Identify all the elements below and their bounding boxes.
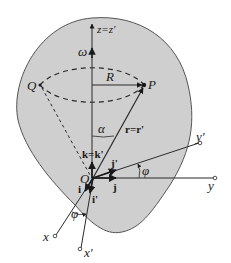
q-label: Q — [27, 78, 37, 93]
alpha-label: α — [98, 121, 106, 136]
k-vector-label: k=k' — [82, 148, 104, 160]
point-p — [142, 83, 146, 87]
r-vector-label: r=r' — [125, 123, 144, 135]
z-axis-label: z=z' — [96, 23, 116, 35]
origin-point — [92, 177, 95, 180]
p-label: P — [147, 77, 156, 92]
point-q — [39, 84, 42, 87]
i-label: i — [78, 183, 81, 195]
origin-label: O — [80, 171, 90, 186]
omega-label: ω — [78, 44, 87, 59]
rotating-frame-diagram: z=z' ω Q R P α r=r' k=k' y' φ j' j y O i… — [0, 0, 231, 263]
j-label: j — [112, 181, 117, 193]
y-prime-label: y' — [194, 129, 205, 144]
x-prime-label: x' — [83, 245, 93, 260]
y-label: y — [206, 178, 214, 193]
r-radius-label: R — [105, 69, 114, 84]
j-prime-label: j' — [110, 157, 118, 169]
x-label: x — [42, 229, 49, 244]
phi-upper-label: φ — [142, 163, 149, 178]
i-prime-label: i' — [92, 193, 98, 205]
phi-lower-label: φ — [71, 206, 78, 221]
